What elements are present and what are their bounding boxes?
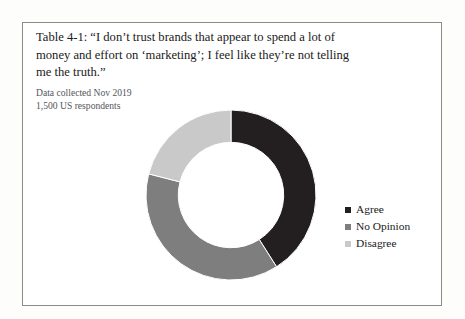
legend-label: Agree <box>356 204 384 215</box>
legend-swatch-icon <box>345 224 351 230</box>
donut-chart <box>131 95 331 295</box>
donut-slice-disagree[interactable] <box>149 110 231 182</box>
legend-item-agree[interactable]: Agree <box>345 201 410 218</box>
legend-item-no-opinion[interactable]: No Opinion <box>345 218 410 235</box>
chart-area: AgreeNo OpinionDisagree <box>23 23 443 307</box>
legend-item-disagree[interactable]: Disagree <box>345 235 410 252</box>
legend-swatch-icon <box>345 207 351 213</box>
donut-slice-group <box>146 110 316 280</box>
donut-slice-no-opinion[interactable] <box>146 174 277 280</box>
chart-legend: AgreeNo OpinionDisagree <box>345 201 410 252</box>
legend-label: Disagree <box>356 238 396 249</box>
figure-frame: Table 4-1: “I don’t trust brands that ap… <box>22 22 442 306</box>
legend-label: No Opinion <box>356 221 410 232</box>
legend-swatch-icon <box>345 241 351 247</box>
donut-slice-agree[interactable] <box>231 110 316 267</box>
page-background: Table 4-1: “I don’t trust brands that ap… <box>0 0 465 319</box>
